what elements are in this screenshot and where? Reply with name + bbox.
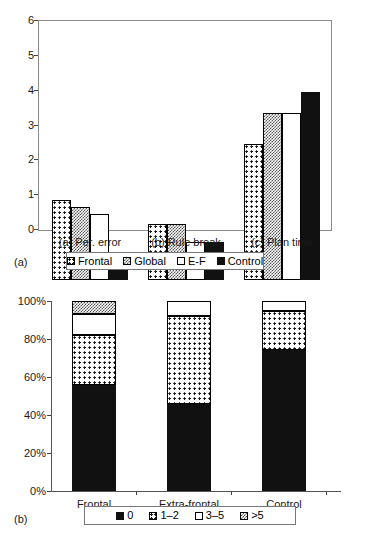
segment-3-5-frontal (72, 314, 116, 335)
y-tick-label: 80% (8, 334, 46, 345)
legend-label: Global (134, 256, 166, 267)
bar-ef-plan-time (282, 113, 301, 280)
legend-label: 3–5 (206, 510, 224, 521)
legend-item-0: 0 (116, 510, 133, 521)
legend-label: >5 (251, 510, 264, 521)
legend-item-control: Control (217, 256, 263, 267)
legend-item-frontal: Frontal (67, 256, 112, 267)
chart-panel-a: 6 5 4 3 2 1 0 (a) Per. error (b) Rule br (0, 0, 370, 280)
legend-swatch-black-icon (217, 257, 225, 265)
chart-panel-b: 100% 80% 60% 40% 20% 0% Frontal (0, 280, 370, 546)
stacked-bar-extra-frontal (167, 301, 211, 491)
x-tick-mark (231, 491, 232, 495)
segment-1-2-control (262, 311, 306, 351)
legend-label: Control (228, 256, 263, 267)
segment-0-extra-frontal (167, 404, 211, 491)
y-tick-label: 3 (14, 119, 34, 130)
y-tick-label: 1 (14, 189, 34, 200)
legend-swatch-white-icon (195, 512, 203, 520)
bar-global-plan-time (263, 113, 282, 280)
legend-label: 1–2 (160, 510, 178, 521)
segment-gt5-frontal (72, 301, 116, 314)
legend-swatch-sparse-dots-icon (149, 512, 157, 520)
y-tick-label: 0% (8, 486, 46, 497)
legend-item-gt5: >5 (240, 510, 264, 521)
y-tick-label: 6 (14, 15, 34, 26)
x-tick-mark (326, 491, 327, 495)
stacked-bar-control (262, 301, 306, 491)
segment-0-control (262, 350, 306, 491)
legend-label: 0 (127, 510, 133, 521)
legend-item-3-5: 3–5 (195, 510, 224, 521)
legend-swatch-checker-icon (123, 257, 131, 265)
panel-b-tag: (b) (14, 513, 27, 525)
y-tick-mark (34, 194, 38, 195)
y-tick-label: 2 (14, 154, 34, 165)
y-tick-mark (34, 229, 38, 230)
legend-a: Frontal Global E-F Control (66, 252, 264, 270)
y-tick-label: 20% (8, 448, 46, 459)
x-tick-mark (136, 491, 137, 495)
legend-swatch-white-icon (177, 257, 185, 265)
x-label-plan-time: (c) Plan time (232, 236, 332, 248)
axis-line-x-b (51, 491, 341, 492)
legend-item-global: Global (123, 256, 166, 267)
y-tick-label: 40% (8, 410, 46, 421)
axis-line-y-b (51, 301, 52, 491)
y-tick-mark (34, 125, 38, 126)
y-tick-label: 60% (8, 372, 46, 383)
y-tick-mark (34, 159, 38, 160)
x-label-per-error: (a) Per. error (40, 236, 140, 248)
y-tick-label: 5 (14, 49, 34, 60)
legend-label: E-F (188, 256, 206, 267)
segment-3-5-extra-frontal (167, 301, 211, 316)
segment-1-2-frontal (72, 335, 116, 384)
legend-swatch-black-icon (116, 512, 124, 520)
y-tick-label: 4 (14, 84, 34, 95)
legend-label: Frontal (78, 256, 112, 267)
legend-b: 0 1–2 3–5 >5 (84, 506, 296, 525)
y-tick-mark (34, 55, 38, 56)
bar-control-plan-time (301, 92, 320, 280)
segment-0-frontal (72, 385, 116, 491)
stacked-bar-frontal (72, 301, 116, 491)
panel-a-tag: (a) (14, 256, 27, 268)
legend-swatch-checker-icon (240, 512, 248, 520)
legend-item-1-2: 1–2 (149, 510, 178, 521)
y-tick-label: 100% (8, 296, 46, 307)
x-label-rule-break: (b) Rule break (136, 236, 236, 248)
y-tick-mark (34, 90, 38, 91)
legend-item-ef: E-F (177, 256, 206, 267)
y-tick-mark (34, 20, 38, 21)
y-tick-label: 0 (14, 224, 34, 235)
legend-swatch-sparse-dots-icon (67, 257, 75, 265)
segment-1-2-extra-frontal (167, 316, 211, 403)
segment-3-5-control (262, 301, 306, 311)
